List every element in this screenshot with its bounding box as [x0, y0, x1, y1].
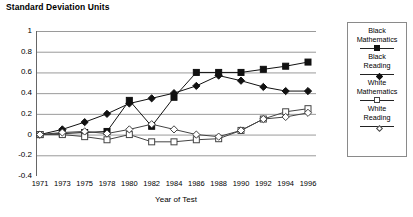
y-tick-label: 0.8: [21, 48, 32, 56]
x-tick-label: 1986: [188, 180, 205, 188]
x-tick-label: 1990: [233, 180, 250, 188]
legend-label-line2: Mathematics: [348, 35, 406, 44]
x-tick-label: 1973: [54, 180, 71, 188]
y-tick-label: 0: [28, 131, 32, 139]
filled-square-icon: [374, 45, 380, 51]
data-point-marker: [149, 139, 155, 145]
y-tick-label: 1: [28, 27, 32, 35]
data-point-marker: [171, 139, 177, 145]
x-tick-label: 1994: [277, 180, 294, 188]
legend-label-line2: Reading: [348, 61, 406, 70]
legend-sample: [348, 70, 406, 78]
legend-label-line2: Mathematics: [348, 87, 406, 96]
data-point-marker: [103, 110, 110, 117]
x-tick-label: 1978: [99, 180, 116, 188]
legend-sample: [348, 96, 406, 104]
x-tick-label: 1992: [255, 180, 272, 188]
data-point-marker: [193, 82, 200, 89]
data-point-marker: [237, 77, 244, 84]
x-tick-label: 1975: [76, 180, 93, 188]
legend-label-line1: White: [348, 104, 406, 113]
y-tick-label: -0.2: [18, 151, 32, 159]
legend-sample: [348, 44, 406, 52]
legend-item[interactable]: WhiteReading: [348, 104, 406, 130]
legend-label-line1: White: [348, 78, 406, 87]
legend-sample: [348, 122, 406, 130]
legend-label-line1: Black: [348, 26, 406, 35]
data-point-marker: [260, 66, 266, 72]
legend-item[interactable]: WhiteMathematics: [348, 78, 406, 104]
plot-svg: [36, 31, 316, 176]
data-point-marker: [81, 119, 88, 126]
data-point-marker: [148, 95, 155, 102]
x-tick-label: 1982: [143, 180, 160, 188]
data-point-marker: [260, 83, 267, 90]
chart-figure: Standard Deviation Units 10.80.60.40.20-…: [0, 0, 413, 217]
legend-label-line1: Black: [348, 52, 406, 61]
chart-title: Standard Deviation Units: [6, 2, 109, 12]
data-point-marker: [283, 63, 289, 69]
y-tick-label: 0.4: [21, 89, 32, 97]
x-tick-label: 1996: [300, 180, 317, 188]
legend-label-line2: Reading: [348, 113, 406, 122]
data-point-marker: [193, 69, 199, 75]
legend-item[interactable]: BlackReading: [348, 52, 406, 78]
y-tick-label: 0.2: [21, 110, 32, 118]
y-tick-label: 0.6: [21, 68, 32, 76]
legend-item[interactable]: BlackMathematics: [348, 26, 406, 52]
x-axis-title: Year of Test: [36, 195, 316, 204]
x-tick-label: 1988: [210, 180, 227, 188]
data-point-marker: [238, 69, 244, 75]
y-tick-label: -0.4: [18, 172, 32, 180]
x-tick-label: 1980: [121, 180, 138, 188]
x-tick-label: 1984: [166, 180, 183, 188]
plot-area: 10.80.60.40.20-0.2-0.4197119731975197819…: [36, 31, 316, 176]
data-point-marker: [170, 126, 177, 133]
data-point-marker: [305, 59, 311, 65]
chart-legend: BlackMathematicsBlackReadingWhiteMathema…: [347, 22, 407, 157]
open-square-icon: [374, 97, 380, 103]
x-tick-label: 1971: [32, 180, 49, 188]
